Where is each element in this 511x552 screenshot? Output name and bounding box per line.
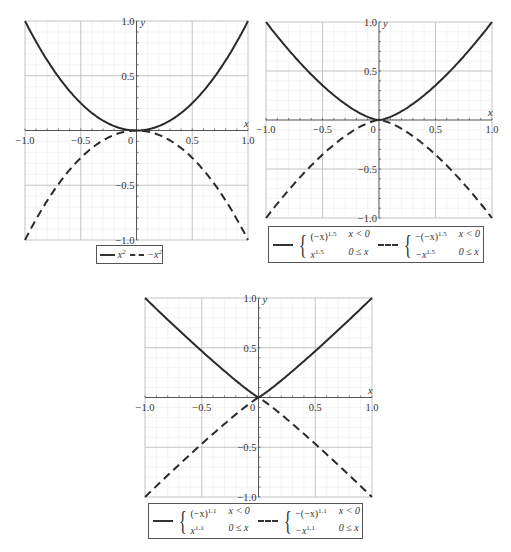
- legend-cases-dashed: −(−x)1.1x < 0 −x1.10 ≤ x: [295, 505, 360, 538]
- x-axis-label: x: [367, 385, 373, 396]
- x-tick-label: −0.5: [313, 124, 332, 135]
- x-tick-label: 0.5: [309, 402, 322, 413]
- legend-label-solid: x2: [118, 248, 126, 260]
- brace-icon: {: [299, 231, 307, 259]
- y-tick-label: −1.0: [358, 213, 377, 224]
- dashed-line-swatch: [258, 520, 278, 522]
- y-tick-label: 0.5: [243, 343, 256, 354]
- dashed-line-swatch: [130, 254, 145, 256]
- y-tick-label: −1.0: [237, 492, 256, 503]
- y-tick-label: −0.5: [237, 442, 256, 453]
- x-tick-label: −1.0: [256, 124, 275, 135]
- y-axis-label: y: [262, 294, 268, 305]
- solid-line-swatch: [100, 254, 115, 256]
- legend-plot-2: { (−x)1.5x < 0 x1.50 ≤ x { −(−x)1.5x < 0…: [268, 226, 484, 263]
- plot-3: −1.0−0.500.51.01.00.5−0.5−1.0xy: [135, 293, 378, 503]
- chart-canvas: −1.0−0.500.51.01.00.5−0.5−1.0xy−1.0−0.50…: [0, 0, 511, 552]
- x-tick-label: 0: [128, 135, 133, 146]
- y-tick-label: −0.5: [115, 180, 134, 191]
- x-tick-label: 1.0: [365, 402, 378, 413]
- x-tick-label: −0.5: [192, 402, 211, 413]
- legend-cases-solid: (−x)1.5x < 0 x1.50 ≤ x: [310, 228, 369, 261]
- x-tick-label: 0: [370, 124, 375, 135]
- legend-cases-solid: (−x)1.1x < 0 x1.10 ≤ x: [190, 505, 249, 538]
- y-tick-label: 0.5: [364, 66, 377, 77]
- solid-line-swatch: [273, 244, 293, 246]
- x-tick-label: 0.5: [429, 124, 442, 135]
- plot-2: −1.0−0.500.51.01.00.5−0.5−1.0xy: [256, 17, 498, 224]
- y-tick-label: 1.0: [121, 16, 134, 27]
- brace-icon: {: [283, 507, 291, 535]
- y-axis-label: y: [382, 18, 388, 29]
- legend-plot-3: { (−x)1.1x < 0 x1.10 ≤ x { −(−x)1.1x < 0…: [148, 503, 363, 539]
- y-tick-label: −0.5: [358, 164, 377, 175]
- y-tick-label: 0.5: [121, 71, 134, 82]
- y-axis-label: y: [140, 17, 146, 28]
- x-tick-label: −1.0: [135, 402, 154, 413]
- x-axis-label: x: [487, 107, 493, 118]
- dashed-line-swatch: [378, 244, 398, 246]
- x-axis-label: x: [243, 118, 249, 129]
- y-tick-label: 1.0: [364, 17, 377, 28]
- x-tick-label: 1.0: [241, 135, 254, 146]
- legend-plot-1: x2 −x2: [96, 245, 163, 264]
- x-tick-label: 0.5: [186, 135, 199, 146]
- x-tick-label: −1.0: [15, 135, 34, 146]
- legend-cases-dashed: −(−x)1.5x < 0 −x1.50 ≤ x: [415, 228, 480, 261]
- y-tick-label: 1.0: [243, 293, 256, 304]
- legend-label-dashed: −x2: [147, 248, 162, 260]
- x-tick-label: 0: [250, 402, 255, 413]
- x-tick-label: 1.0: [485, 124, 498, 135]
- brace-icon: {: [179, 507, 187, 535]
- solid-line-swatch: [153, 520, 173, 522]
- plot-1: −1.0−0.500.51.01.00.5−0.5−1.0xy: [15, 16, 254, 246]
- brace-icon: {: [403, 231, 411, 259]
- x-tick-label: −0.5: [71, 135, 90, 146]
